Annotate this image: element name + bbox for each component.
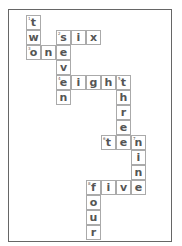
crossword-cell[interactable]: e — [131, 180, 146, 195]
crossword-cell[interactable]: h — [101, 75, 116, 90]
cell-letter: f — [87, 181, 100, 194]
cell-letter: r — [87, 226, 100, 239]
crossword-cell[interactable]: e — [116, 120, 131, 135]
cell-letter: h — [102, 76, 115, 89]
crossword-cell[interactable]: n — [41, 45, 56, 60]
crossword-cell[interactable]: 5t — [116, 75, 131, 90]
crossword-cell[interactable]: 8f — [86, 180, 101, 195]
crossword-cell[interactable]: g — [86, 75, 101, 90]
cell-letter: e — [117, 121, 130, 134]
cell-letter: r — [117, 106, 130, 119]
cell-letter: i — [72, 31, 85, 44]
crossword-cell[interactable]: 1t — [26, 15, 41, 30]
crossword-cell[interactable]: h — [116, 90, 131, 105]
crossword-cell[interactable]: r — [86, 225, 101, 240]
crossword-cell[interactable]: i — [71, 75, 86, 90]
crossword-cell[interactable]: n — [131, 165, 146, 180]
crossword-cell[interactable]: u — [86, 210, 101, 225]
crossword-cell[interactable]: i — [101, 180, 116, 195]
crossword-cell[interactable]: v — [56, 60, 71, 75]
cell-letter: i — [132, 151, 145, 164]
cell-letter: v — [117, 181, 130, 194]
cell-letter: t — [27, 16, 40, 29]
cell-letter: i — [72, 76, 85, 89]
crossword-cell[interactable]: n — [56, 90, 71, 105]
crossword-cell[interactable]: e — [56, 45, 71, 60]
cell-letter: v — [57, 61, 70, 74]
cell-letter: o — [87, 196, 100, 209]
crossword-cell[interactable]: 2s — [56, 30, 71, 45]
cell-letter: g — [87, 76, 100, 89]
crossword-cell[interactable]: i — [131, 150, 146, 165]
crossword-cell[interactable]: r — [116, 105, 131, 120]
cell-letter: e — [117, 136, 130, 149]
cell-letter: t — [102, 136, 115, 149]
cell-letter: t — [117, 76, 130, 89]
cell-letter: i — [102, 181, 115, 194]
cell-letter: e — [57, 46, 70, 59]
crossword-cell[interactable]: e — [116, 135, 131, 150]
cell-letter: e — [132, 181, 145, 194]
cell-letter: s — [57, 31, 70, 44]
cell-letter: n — [57, 91, 70, 104]
cell-letter: x — [87, 31, 100, 44]
cell-letter: n — [42, 46, 55, 59]
crossword-cell[interactable]: x — [86, 30, 101, 45]
cell-letter: w — [27, 31, 40, 44]
cell-letter: n — [132, 136, 145, 149]
cell-letter: n — [132, 166, 145, 179]
crossword-cell[interactable]: 7n — [131, 135, 146, 150]
cell-letter: u — [87, 211, 100, 224]
crossword-cell[interactable]: 6t — [101, 135, 116, 150]
crossword-cell[interactable]: 4e — [56, 75, 71, 90]
crossword-cell[interactable]: 3o — [26, 45, 41, 60]
crossword-cell[interactable]: w — [26, 30, 41, 45]
crossword-cell[interactable]: v — [116, 180, 131, 195]
cell-letter: e — [57, 76, 70, 89]
crossword-cell[interactable]: o — [86, 195, 101, 210]
cell-letter: h — [117, 91, 130, 104]
cell-letter: o — [27, 46, 40, 59]
crossword-cell[interactable]: i — [71, 30, 86, 45]
